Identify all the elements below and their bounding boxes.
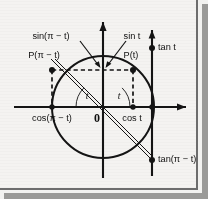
dot-cos-t	[130, 104, 135, 109]
dot-tan-pi-minus-t	[149, 157, 155, 163]
figure-frame: sin(π − t) sin t P(π − t) P(t) tan t tan…	[0, 0, 208, 199]
y-axis-arrowhead	[99, 22, 106, 31]
x-axis-arrowhead	[177, 103, 186, 110]
label-tan-pi-minus-t: tan(π − t)	[158, 154, 196, 164]
angle-arc-right	[122, 88, 130, 107]
frame-shadow-right	[202, 4, 208, 199]
label-point-p-t: P(t)	[124, 50, 139, 60]
label-sin-t: sin t	[124, 31, 141, 41]
dot-p-pi-minus-t	[49, 67, 55, 73]
label-sin-pi-minus-t: sin(π − t)	[32, 31, 69, 41]
label-cos-t: cos t	[122, 113, 142, 123]
figure-canvas: sin(π − t) sin t P(π − t) P(t) tan t tan…	[0, 0, 198, 190]
label-angle-left: t	[86, 90, 89, 101]
label-origin: 0	[94, 111, 100, 125]
tangent-line-arrowhead	[149, 30, 156, 39]
label-tan-t: tan t	[158, 42, 176, 52]
dot-tangent-x-intercept	[149, 104, 154, 109]
leader-sin-pi-minus-t	[80, 41, 99, 66]
dot-p-t	[130, 67, 136, 73]
figure-paper: sin(π − t) sin t P(π − t) P(t) tan t tan…	[0, 0, 198, 190]
label-angle-right: t	[118, 90, 121, 101]
unit-circle-diagram: sin(π − t) sin t P(π − t) P(t) tan t tan…	[0, 0, 198, 190]
label-cos-pi-minus-t: cos(π − t)	[32, 113, 72, 123]
frame-shadow-bottom	[4, 193, 208, 199]
dot-cos-pi-minus-t	[49, 104, 54, 109]
dot-tan-t	[149, 45, 155, 51]
diagonal-pi-minus-t	[51, 59, 152, 160]
radii-group	[51, 59, 152, 160]
label-point-p-pi-minus-t: P(π − t)	[28, 50, 60, 60]
